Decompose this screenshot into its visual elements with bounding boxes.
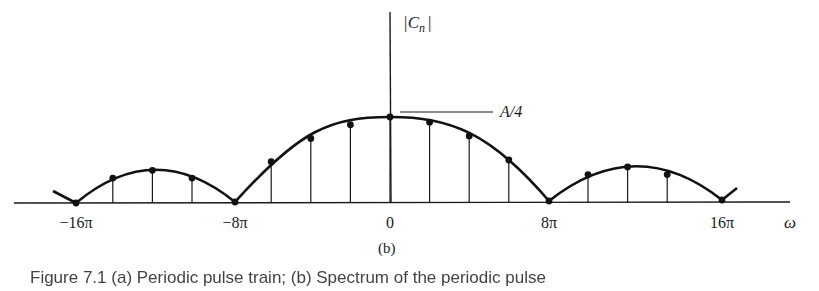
figure-caption: Figure 7.1 (a) Periodic pulse train; (b)… [0, 268, 819, 291]
spectral-line-dot [109, 175, 116, 182]
spectral-line-dot [505, 157, 512, 164]
spectral-line-dot [307, 135, 314, 142]
spectral-line-dot [268, 158, 275, 165]
y-axis-label-sub: n [419, 21, 425, 35]
envelope-lobe-right [549, 166, 722, 201]
tick-label-8pi: 8π [541, 214, 557, 231]
tick-label-16pi: 16π [710, 214, 734, 231]
tick-label-neg8pi: −8π [222, 214, 247, 231]
spectral-line-dot [466, 133, 473, 140]
spectral-line-dot [387, 114, 394, 121]
spectral-lines [109, 114, 670, 203]
envelope-main-lobe [235, 117, 549, 202]
x-axis [14, 202, 790, 203]
tick-label-zero: 0 [386, 214, 394, 231]
annotation-label: A/4 [499, 103, 522, 120]
y-axis-label: |Cn| [403, 13, 431, 35]
spectral-line-dot [585, 171, 592, 178]
spectrum-chart: A/4 |Cn| −16π −8π 0 8π 16π ω [0, 0, 819, 291]
spectral-line-dot [426, 119, 433, 126]
spectral-line-dot [347, 121, 354, 128]
y-axis-label-close: | [428, 13, 431, 32]
envelope-tail-left [53, 191, 76, 203]
tick-label-neg16pi: −16π [59, 214, 92, 231]
y-axis-label-main: |C [403, 13, 420, 32]
spectral-line-dot [624, 163, 631, 170]
x-axis-label: ω [784, 213, 796, 232]
panel-label: (b) [378, 240, 396, 257]
spectral-line-dot [664, 171, 671, 178]
spectral-line-dot [189, 175, 196, 182]
envelope-lobe-left [76, 170, 235, 203]
spectral-line-dot [149, 167, 156, 174]
